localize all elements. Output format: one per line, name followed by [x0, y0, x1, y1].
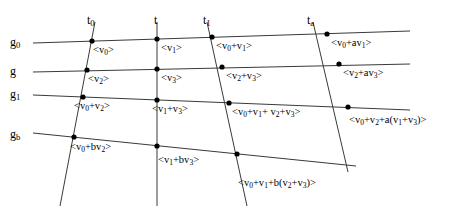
generation-axis-label-g: g	[10, 65, 16, 77]
lattice-node-n-t0-g1	[80, 94, 85, 99]
generation-axis-label-gb: gb	[10, 128, 20, 140]
node-value-lbl-sum-all: <v0+v1+ v2+v3>	[232, 107, 300, 118]
time-axis-label-t0: t0	[87, 14, 95, 26]
node-value-lbl-v2-av3: <v2+av3>	[343, 68, 384, 79]
node-value-lbl-v0-v1: <v0+v1>	[216, 41, 252, 52]
node-value-lbl-v1-bv3: <v1+bv3>	[158, 155, 199, 166]
time-line-t0	[60, 22, 95, 206]
node-value-lbl-v0: <v0>	[93, 45, 114, 56]
node-value-lbl-v2: <v2>	[88, 74, 109, 85]
generation-axis-label-g0: g0	[10, 36, 20, 48]
lattice-node-n-t1-g	[219, 64, 224, 69]
lattice-node-n-t0-g	[84, 67, 89, 72]
lattice-node-n-t-g1	[154, 97, 159, 102]
lattice-node-n-t0-g0	[89, 38, 94, 43]
lattice-node-n-ta-g	[336, 61, 341, 66]
node-value-lbl-v0-bv2: <v0+bv2>	[70, 142, 111, 153]
node-value-lbl-v3: <v3>	[161, 73, 182, 84]
node-value-lbl-v0-v2: <v0+v2>	[74, 101, 110, 112]
lattice-node-n-t-g	[154, 66, 159, 71]
time-axis-label-t1: t1	[203, 14, 211, 26]
generation-axis-label-g1: g1	[10, 88, 20, 100]
time-axis-label-ta: ta	[307, 14, 314, 26]
lattice-node-n-t0-gb	[71, 134, 76, 139]
lattice-node-n-t1-g1	[226, 100, 231, 105]
lattice-node-n-ta-g0	[324, 31, 329, 36]
lattice-svg	[0, 0, 453, 215]
lattice-node-n-t-gb	[154, 143, 159, 148]
node-value-lbl-v0-v2-a: <v0+v2+a(v1+v3)>	[349, 115, 426, 126]
node-value-lbl-v0-av1: <v0+av1>	[331, 38, 372, 49]
node-value-lbl-v1: <v1>	[161, 43, 182, 54]
node-value-lbl-v1-v3: <v1+v3>	[152, 104, 188, 115]
lattice-diagram-canvas: t0tt1tag0gg1gb <v0><v1><v0+v1><v0+av1><v…	[0, 0, 453, 215]
time-axis-label-t: t	[154, 14, 157, 26]
node-value-lbl-v0-v1-b: <v0+v1+b(v2+v3)>	[238, 178, 316, 189]
lattice-node-n-ta-g1	[345, 104, 350, 109]
lattice-node-n-t1-g0	[209, 34, 214, 39]
lattice-node-n-t-g0	[154, 36, 159, 41]
node-value-lbl-v2-v3: <v2+v3>	[226, 71, 262, 82]
lattice-node-n-t1-gb	[234, 151, 239, 156]
